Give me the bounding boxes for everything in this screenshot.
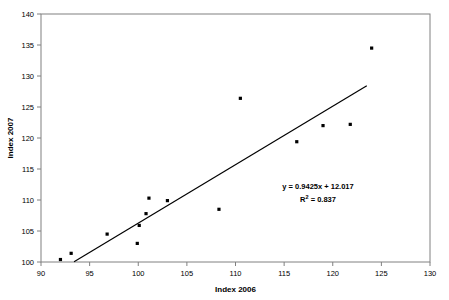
data-point (59, 258, 62, 261)
y-tick-label: 105 (21, 227, 34, 236)
data-point (370, 47, 373, 50)
data-point (295, 140, 298, 143)
data-point (136, 242, 139, 245)
y-tick-label: 110 (22, 196, 34, 205)
y-tick-label: 135 (21, 41, 34, 50)
data-point (138, 224, 141, 227)
x-axis-title: Index 2006 (215, 285, 256, 294)
x-tick-label: 100 (132, 269, 145, 278)
data-point (349, 123, 352, 126)
y-tick-label: 130 (21, 72, 34, 81)
r-squared-label: R2 = 0.837 (300, 194, 336, 204)
x-tick-label: 120 (326, 269, 339, 278)
x-tick-label: 105 (181, 269, 194, 278)
y-tick-label: 100 (21, 258, 34, 267)
chart-background (0, 0, 449, 300)
y-tick-label: 140 (21, 10, 34, 19)
y-axis-title: Index 2007 (6, 117, 15, 158)
y-tick-label: 120 (21, 134, 34, 143)
data-point (106, 233, 109, 236)
data-point (217, 208, 220, 211)
scatter-chart: 9095100105110115120125130 10010511011512… (0, 0, 449, 300)
r-squared-value: = 0.837 (309, 195, 336, 204)
data-point (147, 197, 150, 200)
data-point (166, 199, 169, 202)
data-point (144, 212, 147, 215)
x-tick-label: 90 (37, 269, 45, 278)
x-tick-label: 115 (278, 269, 290, 278)
x-tick-label: 110 (230, 269, 242, 278)
x-tick-label: 130 (424, 269, 437, 278)
x-tick-label: 95 (85, 269, 93, 278)
regression-equation-label: y = 0.9425x + 12.017 (282, 182, 353, 191)
y-axis-tick-labels: 100105110115120125130135140 (21, 10, 34, 267)
x-tick-label: 125 (375, 269, 388, 278)
y-tick-label: 115 (22, 165, 34, 174)
data-point (239, 97, 242, 100)
y-tick-label: 125 (21, 103, 34, 112)
chart-canvas: 9095100105110115120125130 10010511011512… (0, 0, 449, 300)
data-point (70, 252, 73, 255)
data-point (321, 124, 324, 127)
